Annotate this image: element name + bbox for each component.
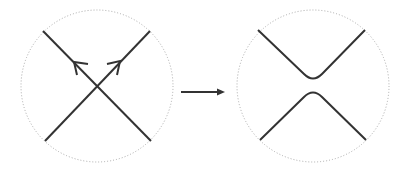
upper-arc — [258, 30, 365, 79]
transition-arrow — [181, 89, 225, 96]
right-panel-smoothing — [237, 10, 389, 162]
left-panel-crossing — [21, 10, 173, 162]
crossing-smoothing-diagram — [0, 0, 406, 172]
arrow-right-icon — [217, 89, 225, 96]
lower-arc — [260, 93, 366, 141]
